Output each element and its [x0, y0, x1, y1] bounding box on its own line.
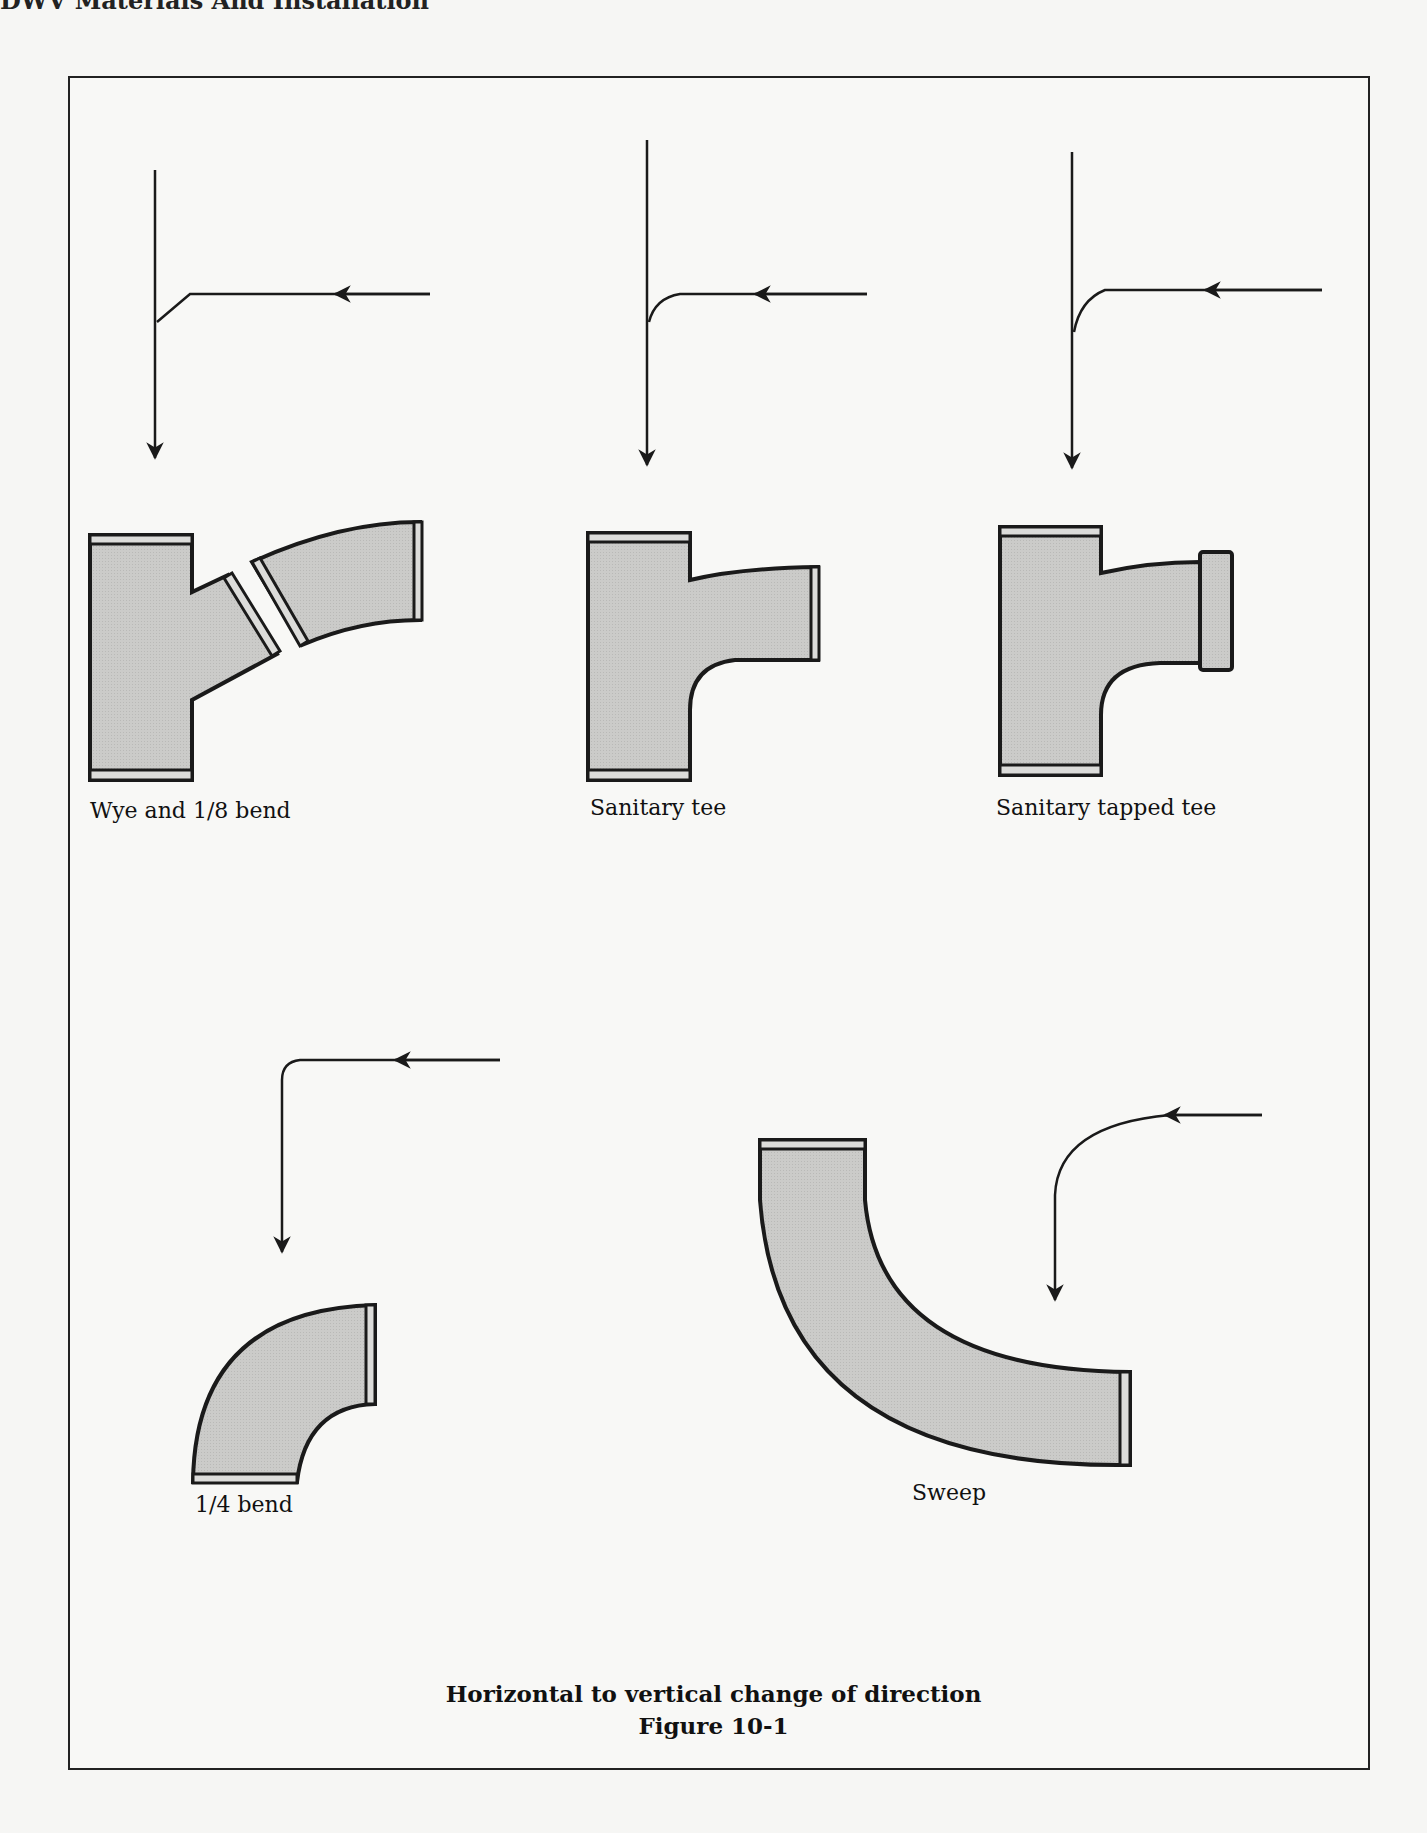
wye-fitting — [90, 522, 422, 780]
wye-flow-arrow-icon — [155, 170, 430, 458]
sweep-flow-arrow-icon — [1055, 1115, 1262, 1300]
quarter-bend-fitting — [193, 1305, 375, 1483]
figure-title: Horizontal to vertical change of directi… — [0, 1678, 1427, 1709]
sanitary-tee-flow-arrow-icon — [647, 140, 867, 465]
sweep-fitting — [760, 1140, 1130, 1465]
label-quarter-bend: 1/4 bend — [195, 1492, 293, 1517]
label-sanitary-tapped-tee: Sanitary tapped tee — [996, 795, 1216, 820]
figure-drawing — [0, 0, 1427, 1833]
sanitary-tapped-tee-fitting — [1000, 527, 1232, 775]
label-sanitary-tee: Sanitary tee — [590, 795, 726, 820]
quarter-bend-flow-arrow-icon — [282, 1060, 500, 1252]
label-wye: Wye and 1/8 bend — [90, 798, 291, 823]
label-sweep: Sweep — [912, 1480, 986, 1505]
figure-number: Figure 10-1 — [0, 1710, 1427, 1741]
sanitary-tapped-tee-flow-arrow-icon — [1072, 152, 1322, 468]
sanitary-tee-fitting — [588, 533, 819, 780]
